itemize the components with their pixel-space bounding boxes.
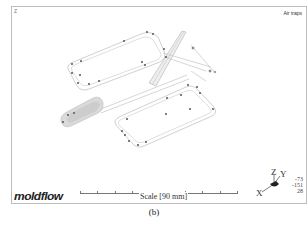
cold-slug-well	[61, 97, 103, 127]
scale-label: Scale [90 mm]	[139, 192, 188, 201]
scale-tick	[202, 191, 203, 194]
scale-tick	[97, 191, 98, 194]
scale-tick	[115, 191, 116, 194]
figure-caption: (b)	[0, 207, 308, 217]
air-trap-markers	[62, 31, 214, 146]
scale-tick	[132, 191, 133, 194]
axis-y-label: Y	[280, 169, 287, 179]
scale-tick	[220, 191, 221, 194]
view-angles: -73 -151 28	[292, 176, 303, 194]
axis-z-label: Z	[271, 167, 277, 177]
lower-cavity-part	[115, 86, 216, 147]
moldflow-logo: moldflow	[14, 191, 63, 203]
axis-triad[interactable]: X Z Y	[258, 170, 288, 200]
scale-tick	[80, 191, 81, 194]
detached-features	[191, 45, 216, 73]
scale-tick	[237, 191, 238, 194]
axis-x-label: X	[256, 188, 263, 198]
view-angle-z: 28	[292, 188, 303, 194]
